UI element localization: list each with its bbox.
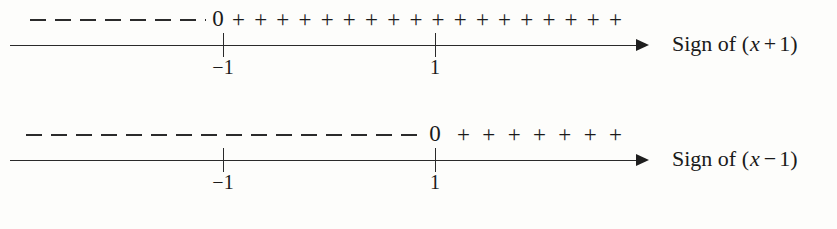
caption-suffix: )	[790, 146, 797, 171]
caption-prefix: Sign of (	[672, 146, 749, 171]
plus-sign: +	[533, 121, 546, 149]
plus-sign: +	[476, 6, 489, 34]
caption-operator: −	[761, 146, 779, 171]
plus-sign: +	[498, 6, 511, 34]
caption-suffix: )	[790, 31, 797, 56]
caption-variable: x	[749, 31, 761, 56]
plus-sign: +	[343, 6, 356, 34]
tick-label-negative-one: −1	[212, 171, 233, 193]
zero-marker: 0	[429, 119, 441, 149]
caption-variable: x	[749, 146, 761, 171]
plus-sign: +	[482, 121, 495, 149]
plus-sign: +	[409, 6, 422, 34]
line-caption-sign-of-x-plus-1: Sign of (x+1)	[672, 30, 798, 58]
plus-sign: +	[232, 6, 245, 34]
plus-sign: +	[584, 121, 597, 149]
tick-mark-negative-one	[223, 148, 224, 172]
plus-sign: +	[542, 6, 555, 34]
plus-sign: +	[565, 6, 578, 34]
plus-sign: +	[365, 6, 378, 34]
line-caption-sign-of-x-minus-1: Sign of (x−1)	[672, 145, 798, 173]
caption-operator: +	[761, 31, 779, 56]
plus-sign: +	[508, 121, 521, 149]
plus-sign: +	[321, 6, 334, 34]
tick-label-positive-one: 1	[430, 56, 440, 78]
axis-line	[10, 160, 642, 161]
caption-constant: 1	[779, 146, 790, 171]
number-line-sign-of-x-plus-1: −1 1 0 ++++++++++++++++++ Sign of (x+1)	[0, 0, 837, 100]
plus-sign: +	[276, 6, 289, 34]
plus-sign: +	[454, 6, 467, 34]
plus-sign: +	[609, 121, 622, 149]
sign-chart-figure: −1 1 0 ++++++++++++++++++ Sign of (x+1) …	[0, 0, 837, 229]
plus-sign: +	[387, 6, 400, 34]
plus-sign: +	[254, 6, 267, 34]
axis-arrowhead-icon	[636, 39, 649, 51]
tick-mark-negative-one	[223, 33, 224, 57]
tick-label-negative-one: −1	[212, 56, 233, 78]
plus-sign: +	[558, 121, 571, 149]
plus-sign: +	[299, 6, 312, 34]
caption-prefix: Sign of (	[672, 31, 749, 56]
plus-sign: +	[520, 6, 533, 34]
axis-line	[10, 45, 642, 46]
tick-mark-positive-one	[435, 148, 436, 172]
plus-sign: +	[609, 6, 622, 34]
negative-sign-region	[26, 134, 422, 136]
tick-mark-positive-one	[435, 33, 436, 57]
number-line-sign-of-x-minus-1: −1 1 0 +++++++ Sign of (x−1)	[0, 115, 837, 215]
plus-sign: +	[432, 6, 445, 34]
plus-sign: +	[587, 6, 600, 34]
positive-sign-region: +++++++	[457, 121, 622, 149]
tick-label-positive-one: 1	[430, 171, 440, 193]
caption-constant: 1	[779, 31, 790, 56]
axis-arrowhead-icon	[636, 154, 649, 166]
zero-marker: 0	[212, 4, 224, 34]
positive-sign-region: ++++++++++++++++++	[232, 6, 622, 34]
plus-sign: +	[457, 121, 470, 149]
negative-sign-region	[30, 19, 206, 21]
